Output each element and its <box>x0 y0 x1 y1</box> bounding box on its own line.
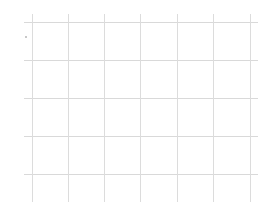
vertical-gridline <box>140 14 141 202</box>
horizontal-gridline <box>24 22 258 23</box>
vertical-gridline <box>104 14 105 202</box>
vertical-gridline <box>250 14 251 202</box>
vertical-gridline <box>32 14 33 202</box>
horizontal-gridline <box>24 60 258 61</box>
vertical-gridline <box>177 14 178 202</box>
faint-marker <box>25 36 27 38</box>
horizontal-gridline <box>24 136 258 137</box>
chart-plot-area <box>0 0 279 202</box>
horizontal-gridline <box>24 98 258 99</box>
vertical-gridline <box>213 14 214 202</box>
vertical-gridline <box>68 14 69 202</box>
horizontal-gridline <box>24 174 258 175</box>
